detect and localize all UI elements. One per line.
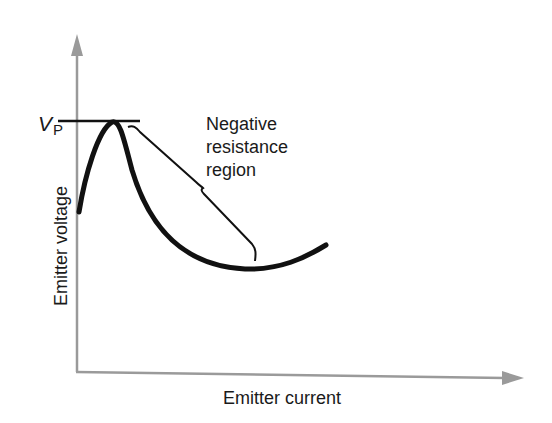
annotation-line-2: resistance — [206, 137, 288, 157]
characteristic-curve — [79, 122, 326, 269]
x-axis-label: Emitter current — [223, 388, 341, 408]
peak-voltage-label: VP — [38, 112, 63, 138]
ujt-characteristic-diagram: VP Negative resistance region Emitter cu… — [0, 0, 552, 423]
annotation-line-3: region — [206, 160, 256, 180]
y-axis-label: Emitter voltage — [51, 186, 71, 306]
annotation-line-1: Negative — [206, 114, 277, 134]
y-axis-arrow-icon — [71, 34, 83, 56]
x-axis — [76, 372, 505, 378]
x-axis-arrow-icon — [502, 371, 524, 385]
